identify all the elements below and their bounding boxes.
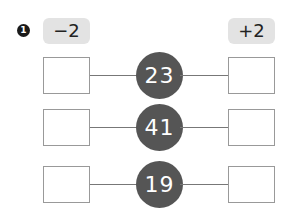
number-row-2: 41 <box>0 104 290 152</box>
number-row-1: 23 <box>0 52 290 100</box>
connector-line <box>90 184 140 185</box>
right-answer-box-1[interactable] <box>228 57 275 94</box>
connector-line <box>90 127 140 128</box>
connector-line <box>90 75 140 76</box>
connector-line <box>180 127 228 128</box>
center-number-circle-3: 19 <box>136 161 183 208</box>
minus-two-label: −2 <box>43 18 90 44</box>
center-number-circle-1: 23 <box>136 52 183 99</box>
connector-line <box>180 75 228 76</box>
connector-line <box>180 184 228 185</box>
number-row-3: 19 <box>0 161 290 209</box>
left-answer-box-1[interactable] <box>43 57 90 94</box>
right-answer-box-2[interactable] <box>228 109 275 146</box>
plus-two-label: +2 <box>228 18 275 44</box>
question-number-badge: 1 <box>17 24 30 37</box>
left-answer-box-2[interactable] <box>43 109 90 146</box>
center-number-circle-2: 41 <box>136 104 183 151</box>
left-answer-box-3[interactable] <box>43 166 90 203</box>
right-answer-box-3[interactable] <box>228 166 275 203</box>
